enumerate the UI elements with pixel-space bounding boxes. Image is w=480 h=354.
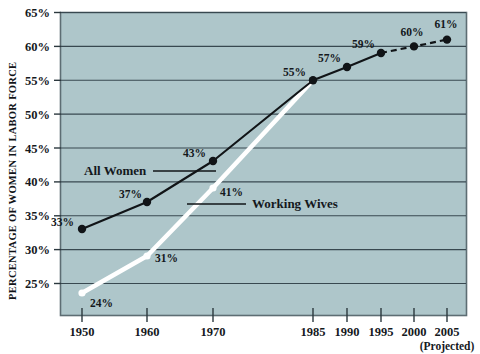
point-label: 60% (401, 26, 424, 38)
y-axis-tick-labels: 65% 60% 55% 50% 45% 40% 35% 30% 25% (25, 6, 50, 291)
y-tick-label: 30% (25, 243, 50, 257)
x-axis-projected-note: (Projected) (420, 340, 475, 353)
point-label: 24% (90, 297, 113, 309)
x-tick-label: 1970 (201, 325, 226, 339)
point-label: 43% (183, 147, 206, 159)
x-tick-label: 1960 (135, 325, 160, 339)
x-axis-tick-labels: 1950 1960 1970 1985 1990 1995 2000 2005 (70, 325, 460, 339)
series-annotation-all-women: All Women (84, 163, 147, 178)
point-label: 41% (220, 186, 243, 198)
x-tick-label: 1985 (301, 325, 326, 339)
x-tick-label: 1990 (335, 325, 360, 339)
x-tick-label: 2005 (435, 325, 460, 339)
y-tick-label: 65% (25, 6, 50, 20)
point-label: 33% (51, 216, 74, 228)
chart-container: 65% 60% 55% 50% 45% 40% 35% 30% 25% PERC… (0, 0, 480, 354)
point-label: 59% (352, 38, 375, 50)
y-tick-label: 25% (25, 277, 50, 291)
y-tick-label: 35% (25, 209, 50, 223)
point-label: 57% (318, 52, 341, 64)
point-label: 55% (283, 66, 306, 78)
y-tick-label: 60% (25, 40, 50, 54)
labor-force-line-chart: 65% 60% 55% 50% 45% 40% 35% 30% 25% PERC… (0, 0, 480, 354)
point-label: 37% (119, 188, 142, 200)
x-tick-label: 2000 (402, 325, 427, 339)
y-tick-label: 55% (25, 74, 50, 88)
x-tick-label: 1950 (70, 325, 95, 339)
y-tick-label: 40% (25, 175, 50, 189)
x-tick-label: 1995 (369, 325, 394, 339)
point-label: 31% (155, 252, 178, 264)
series-annotation-working-wives: Working Wives (252, 196, 338, 211)
y-axis-title: PERCENTAGE OF WOMEN IN LABOR FORCE (7, 62, 18, 300)
point-label: 61% (435, 18, 458, 30)
y-tick-label: 50% (25, 108, 50, 122)
y-tick-label: 45% (25, 142, 50, 156)
